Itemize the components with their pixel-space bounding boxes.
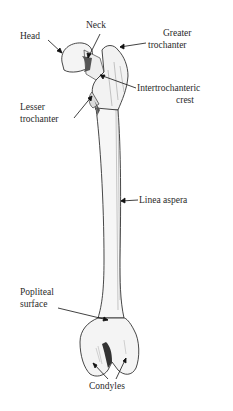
label-popliteal-line1: Popliteal: [20, 287, 54, 298]
label-intertrochanteric-line2: crest: [176, 95, 194, 106]
label-greater-trochanter-line1: Greater: [163, 28, 191, 39]
label-greater-trochanter-line2: trochanter: [148, 40, 187, 51]
label-lesser-trochanter-line2: trochanter: [20, 114, 59, 125]
femur-illustration: [0, 0, 233, 411]
label-popliteal-line2: surface: [20, 299, 47, 310]
label-lesser-trochanter-line1: Lesser: [20, 102, 45, 113]
femur-diagram: Head Neck Greater trochanter Intertrocha…: [0, 0, 233, 411]
label-intertrochanteric-line1: Intertrochanteric: [137, 83, 200, 94]
label-neck: Neck: [86, 20, 106, 31]
label-head: Head: [20, 31, 40, 42]
label-linea-aspera: Linea aspera: [139, 195, 187, 206]
label-condyles: Condyles: [89, 381, 125, 392]
